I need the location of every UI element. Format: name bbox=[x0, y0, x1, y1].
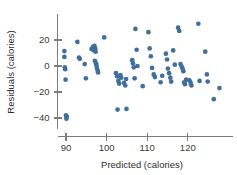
data-point bbox=[147, 46, 152, 51]
data-point bbox=[167, 71, 172, 76]
data-point bbox=[153, 75, 158, 80]
y-axis-title: Residuals (calories) bbox=[5, 30, 16, 113]
data-point bbox=[205, 72, 210, 77]
data-point bbox=[166, 66, 171, 71]
x-axis: 90100110120 bbox=[58, 133, 233, 153]
data-point bbox=[134, 47, 139, 52]
data-point bbox=[63, 67, 68, 72]
data-point bbox=[146, 30, 151, 35]
data-point bbox=[171, 48, 176, 53]
y-tick-label: 0 bbox=[44, 60, 49, 71]
data-point bbox=[140, 84, 145, 89]
x-tick-label: 120 bbox=[180, 142, 196, 153]
y-tick-label: −20 bbox=[33, 86, 49, 97]
data-point bbox=[164, 51, 169, 56]
data-point bbox=[217, 86, 222, 91]
data-point bbox=[197, 79, 202, 84]
data-point bbox=[203, 49, 208, 54]
data-point bbox=[82, 62, 87, 67]
data-point bbox=[160, 73, 165, 78]
chart-svg: 200−20−40 90100110120 Predicted (calorie… bbox=[0, 0, 237, 175]
data-point bbox=[102, 35, 107, 40]
x-tick-label: 100 bbox=[99, 142, 115, 153]
data-point bbox=[93, 49, 98, 54]
data-point bbox=[123, 83, 128, 88]
data-point bbox=[75, 40, 80, 45]
data-point bbox=[189, 83, 194, 88]
data-point bbox=[124, 107, 129, 112]
data-point bbox=[169, 79, 174, 84]
data-point bbox=[96, 70, 101, 75]
data-point bbox=[119, 75, 124, 80]
data-point bbox=[168, 75, 173, 80]
data-point bbox=[64, 114, 69, 119]
data-point bbox=[196, 21, 201, 26]
y-tick-label: −40 bbox=[33, 112, 49, 123]
data-point bbox=[135, 64, 140, 69]
x-tick-label: 90 bbox=[61, 142, 72, 153]
data-point bbox=[181, 69, 186, 74]
data-point bbox=[132, 76, 137, 81]
x-axis-title: Predicted (calories) bbox=[101, 159, 183, 170]
data-point bbox=[124, 77, 129, 82]
data-point bbox=[183, 82, 188, 87]
data-point bbox=[177, 29, 182, 34]
data-point bbox=[149, 54, 154, 59]
data-point bbox=[158, 80, 163, 85]
residual-scatter-chart: 200−20−40 90100110120 Predicted (calorie… bbox=[0, 0, 237, 175]
y-axis: 200−20−40 bbox=[33, 14, 61, 129]
data-point bbox=[63, 77, 68, 82]
data-point bbox=[62, 55, 67, 60]
data-point bbox=[84, 76, 89, 81]
data-point bbox=[117, 81, 122, 86]
data-points-layer bbox=[62, 21, 222, 121]
data-point bbox=[133, 27, 138, 32]
data-point bbox=[165, 57, 170, 62]
data-point bbox=[77, 57, 82, 62]
data-point bbox=[115, 107, 120, 112]
data-point bbox=[131, 61, 136, 66]
data-point bbox=[211, 97, 216, 102]
x-tick-label: 110 bbox=[140, 142, 155, 153]
x-axis-ticks: 90100110120 bbox=[61, 133, 196, 153]
data-point bbox=[150, 66, 155, 71]
data-point bbox=[205, 79, 210, 84]
y-tick-label: 20 bbox=[39, 34, 50, 45]
data-point bbox=[172, 62, 177, 67]
data-point bbox=[62, 49, 67, 54]
